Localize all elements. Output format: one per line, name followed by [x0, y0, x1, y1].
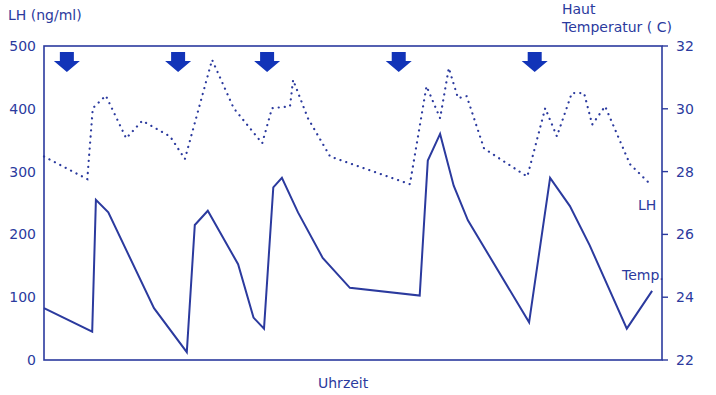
y2-tick-label: 28	[676, 164, 694, 180]
y-tick-label: 300	[9, 164, 36, 180]
pulse-arrow-icon	[386, 52, 412, 72]
chart: 0100200300400500222426283032 LH (ng/ml) …	[0, 0, 716, 395]
y-tick-label: 500	[9, 38, 36, 54]
series-line-temp	[44, 134, 652, 352]
y-tick-label: 100	[9, 289, 36, 305]
series-line-lh	[44, 60, 650, 184]
pulse-arrow-icon	[165, 52, 191, 72]
y-tick-label: 0	[27, 352, 36, 368]
x-axis-label: Uhrzeit	[318, 375, 369, 391]
plot-frame	[44, 46, 662, 360]
pulse-arrow-icon	[54, 52, 80, 72]
y-tick-label: 200	[9, 226, 36, 242]
y2-axis-label-line2: Temperatur ( C)	[561, 19, 672, 35]
series-label-temp: Temp.	[621, 267, 664, 283]
y2-tick-label: 22	[676, 352, 694, 368]
pulse-arrow-icon	[254, 52, 280, 72]
y2-tick-label: 30	[676, 101, 694, 117]
y-axis-label: LH (ng/ml)	[8, 7, 82, 23]
y-tick-label: 400	[9, 101, 36, 117]
pulse-arrow-icon	[522, 52, 548, 72]
y2-tick-label: 32	[676, 38, 694, 54]
y2-tick-label: 26	[676, 226, 694, 242]
series-label-lh: LH	[638, 197, 656, 213]
y2-axis-label-line1: Haut	[562, 1, 596, 17]
y2-tick-label: 24	[676, 289, 694, 305]
